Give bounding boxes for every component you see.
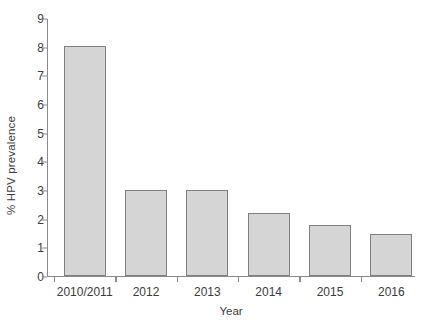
bar-chart: % HPV prevalence 0123456789 2010/2011201… — [0, 0, 431, 331]
bar — [64, 46, 106, 275]
x-axis-tick-mark — [299, 277, 300, 282]
bar-series — [47, 19, 415, 276]
x-axis-title: Year — [47, 305, 415, 317]
x-axis-tick-label: 2015 — [317, 284, 344, 300]
bar — [248, 213, 290, 275]
x-axis-tick-label: 2012 — [133, 284, 160, 300]
y-axis-tick-labels: 0123456789 — [22, 0, 44, 331]
x-axis-tick-mark — [177, 277, 178, 282]
x-axis-tick-mark — [361, 277, 362, 282]
x-axis-tick-mark — [238, 277, 239, 282]
bar — [186, 190, 228, 276]
bar — [125, 190, 167, 276]
x-axis-tick-label: 2016 — [378, 284, 405, 300]
x-axis-tick-label: 2013 — [194, 284, 221, 300]
y-axis-title: % HPV prevalence — [0, 0, 22, 331]
x-axis-tick-label: 2010/2011 — [57, 284, 113, 300]
x-axis-tick-label: 2014 — [255, 284, 282, 300]
x-axis-tick-mark — [54, 277, 55, 282]
bar — [309, 225, 351, 276]
x-axis-tick-labels: 2010/201120122013201420152016 — [47, 284, 415, 300]
plot-area — [47, 19, 415, 277]
x-axis-tick-marks — [47, 277, 415, 282]
x-axis-tick-mark — [115, 277, 116, 282]
bar — [370, 234, 412, 276]
